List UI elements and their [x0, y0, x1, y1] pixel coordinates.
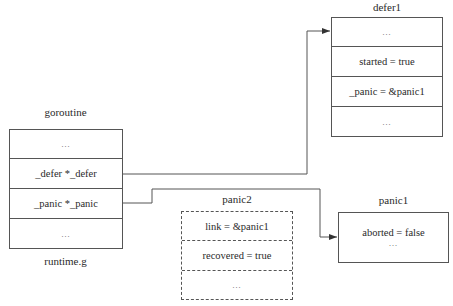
- defer1-title: defer1: [331, 1, 443, 13]
- panic1-ellipsis: …: [389, 238, 399, 248]
- goroutine-row-ellipsis-bottom: …: [10, 219, 122, 248]
- panic1-struct-box: aborted = false …: [338, 212, 449, 263]
- panic2-struct-box: link = &panic1 recovered = true …: [181, 211, 293, 300]
- defer1-row-ellipsis-top: …: [332, 18, 442, 47]
- panic1-title: panic1: [338, 194, 449, 206]
- panic2-row-ellipsis: …: [182, 271, 292, 299]
- goroutine-row-panic: _panic *_panic: [10, 189, 122, 219]
- defer1-row-ellipsis-bottom: …: [332, 107, 442, 136]
- defer1-row-started: started = true: [332, 47, 442, 77]
- defer-pointer-arrow: [122, 31, 330, 174]
- panic2-title: panic2: [181, 193, 293, 205]
- goroutine-caption: runtime.g: [9, 255, 122, 267]
- goroutine-struct-box: … _defer *_defer _panic *_panic …: [9, 129, 123, 249]
- panic2-row-link: link = &panic1: [182, 212, 292, 241]
- goroutine-row-ellipsis-top: …: [10, 130, 122, 159]
- panic1-aborted-field: aborted = false: [362, 227, 424, 238]
- goroutine-row-defer: _defer *_defer: [10, 159, 122, 189]
- defer1-row-panic: _panic = &panic1: [332, 77, 442, 107]
- goroutine-title: goroutine: [9, 106, 122, 118]
- defer1-struct-box: … started = true _panic = &panic1 …: [331, 17, 443, 137]
- panic2-row-recovered: recovered = true: [182, 241, 292, 271]
